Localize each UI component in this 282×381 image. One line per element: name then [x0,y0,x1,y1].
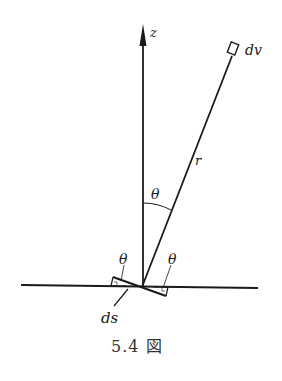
z-axis-label: z [149,25,157,40]
volume-element-dv-icon [227,42,238,55]
theta-right-label: θ [168,251,177,267]
right-theta-leader [163,265,171,288]
ds-label: ds [101,309,119,327]
angle-arc [143,203,171,210]
r-label: r [195,153,202,168]
ds-leader [114,289,128,306]
theta-center-label: θ [151,186,160,202]
z-axis-arrowhead-icon [140,24,147,46]
dv-label: dv [245,42,262,58]
left-theta-leader [121,265,124,281]
figure-caption: 5.4 図 [111,337,163,356]
diagram-canvas: z dv r θ θ θ ds 5.4 図 [0,0,282,381]
theta-left-label: θ [119,251,128,267]
right-right-angle-mark [162,288,165,291]
left-right-angle-mark [114,282,117,285]
r-line [142,56,232,287]
